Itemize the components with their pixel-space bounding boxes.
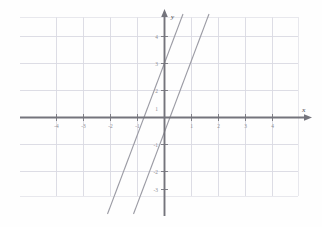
y-axis-arrow-icon (161, 9, 168, 17)
y-tick-label-3: 3 (155, 61, 158, 67)
x-tick-label-2: 2 (217, 123, 220, 129)
horizontal-gridlines (20, 18, 298, 197)
x-tick-label--4: -4 (54, 123, 59, 129)
y-tick-label--1: -1 (154, 142, 159, 148)
graph-figure: -4 -3 -2 -1 1 2 3 4 4 3 2 1 -1 -2 -3 y x (0, 0, 322, 227)
x-tick-label--3: -3 (81, 123, 86, 129)
y-axis-tick-labels: 4 3 2 1 -1 -2 -3 (154, 34, 159, 193)
x-axis-label: x (301, 106, 306, 114)
y-tick-label-2: 2 (155, 88, 158, 94)
coordinate-plane-svg: -4 -3 -2 -1 1 2 3 4 4 3 2 1 -1 -2 -3 y x (0, 0, 322, 227)
y-tick-label--2: -2 (154, 169, 159, 175)
y-tick-label-4: 4 (155, 34, 158, 40)
y-axis-label: y (170, 13, 175, 21)
x-tick-label--1: -1 (135, 123, 140, 129)
x-tick-label-1: 1 (190, 123, 193, 129)
x-tick-label-4: 4 (271, 123, 274, 129)
y-tick-label--3: -3 (154, 187, 159, 193)
x-axis-arrow-icon (304, 114, 312, 121)
y-tick-label-1: 1 (155, 106, 158, 112)
x-tick-label--2: -2 (108, 123, 113, 129)
vertical-gridlines (57, 17, 299, 196)
x-tick-label-3: 3 (244, 123, 247, 129)
